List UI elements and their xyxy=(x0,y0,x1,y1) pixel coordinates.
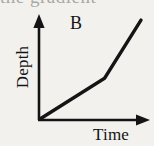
x-axis-arrowhead-icon xyxy=(136,114,150,125)
y-axis-arrowhead-icon xyxy=(33,14,44,28)
series-label-b: B xyxy=(70,13,82,34)
y-axis-label-depth: Depth xyxy=(13,46,33,89)
x-axis-label-time: Time xyxy=(93,125,129,145)
figure-root: the gradient B Depth Time xyxy=(0,0,154,146)
series-b-polyline xyxy=(40,20,141,119)
